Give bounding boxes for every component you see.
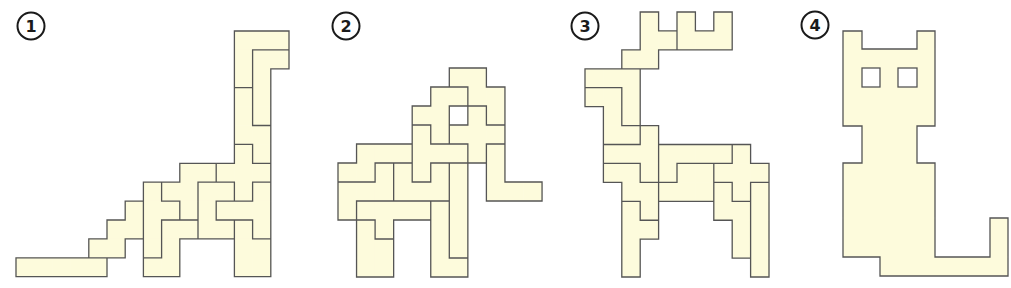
pentomino-cell [252,106,271,126]
pentomino-cell [356,182,375,202]
pentomino-cell [468,68,487,88]
pentomino-cell [234,144,253,164]
pentomino-cell [523,182,542,202]
pentomino-cell [732,220,751,240]
pentomino-cell [234,50,253,70]
pentomino-cell [677,182,696,202]
pentomino-cell [430,239,449,259]
pentomino-cell [107,220,126,240]
pentomino-cell [252,201,271,221]
pentomino-cell [585,87,604,107]
pentomino-cell [375,220,394,240]
pentomino-cell [234,220,253,240]
pentomino-cell [252,258,271,278]
pentomino-cell [161,182,180,202]
pentomino-cell [234,31,253,51]
pentomino-cell [125,220,144,240]
pentomino-cell [695,144,714,164]
pentomino-cell [622,220,641,240]
pentomino-cell [252,182,271,202]
pentomino-cell [622,125,641,145]
pentomino-cell [486,87,505,107]
pentomino-cell [714,12,733,32]
pentomino-cell [750,258,769,278]
pentomino-cell [622,68,641,88]
pentomino-cell [449,220,468,240]
pentomino-cell [143,201,162,221]
pentomino-cell [198,220,217,240]
pentomino-cell [640,220,659,240]
pentomino-cell [180,220,199,240]
pentomino-cell [622,182,641,202]
pentomino-cell [505,182,524,202]
pentomino-cell [430,163,449,183]
pentomino-cell [677,144,696,164]
pentomino-cell [180,163,199,183]
pentomino-cell [695,31,714,51]
pentomino-cell [714,201,733,221]
pentomino-cell [234,106,253,126]
pentomino-cell [449,144,468,164]
pentomino-cell [271,50,290,70]
pentomino-cell [449,163,468,183]
pentomino-cell [252,239,271,259]
pentomino-cell [449,201,468,221]
pentomino-cell [338,201,357,221]
pentomino-cell [677,31,696,51]
pentomino-cell [234,125,253,145]
pentomino-cell [640,144,659,164]
figures-canvas: 1 2 3 4 [0,0,1011,288]
pentomino-cell [234,69,253,89]
pentomino-cell [622,87,641,107]
pentomino-cell [252,50,271,70]
pentomino-cell [750,220,769,240]
pentomino-cell [198,163,217,183]
pentomino-cell [714,31,733,51]
pentomino-cell [412,144,431,164]
pentomino-cell [271,31,290,51]
pentomino-cell [216,182,235,202]
pentomino-cell [125,201,144,221]
pentomino-cell [143,220,162,240]
pentomino-cell [468,87,487,107]
pentomino-cell [143,182,162,202]
pentomino-cell [234,201,253,221]
figure-number: 4 [809,16,820,35]
pentomino-cell [449,68,468,88]
pentomino-cell [234,258,253,278]
pentomino-cell [640,201,659,221]
pentomino-cell [449,239,468,259]
pentomino-cell [603,125,622,145]
pentomino-cell [393,201,412,221]
pentomino-cell [234,163,253,183]
pentomino-cell [658,144,677,164]
right-eye-hole [898,68,917,87]
pentomino-cell [70,258,89,278]
pentomino-cell [356,201,375,221]
pentomino-cell [603,106,622,126]
pentomino-cell [449,87,468,107]
pentomino-cell [486,182,505,202]
pentomino-cell [658,182,677,202]
pentomino-cell [412,106,431,126]
figure-number-badge: 1 [18,13,45,40]
pentomino-cell [393,144,412,164]
pentomino-cell [252,163,271,183]
pentomino-cell [622,239,641,259]
pentomino-cell [216,220,235,240]
pentomino-puzzle-figures: 1 2 3 4 [0,0,1011,288]
pentomino-cell [714,163,733,183]
pentomino-cell [252,220,271,240]
pentomino-cell [585,68,604,88]
pentomino-cell [412,163,431,183]
pentomino-cell [375,163,394,183]
pentomino-cell [449,258,468,278]
figure-number-badge: 2 [333,13,360,40]
pentomino-cell [640,31,659,51]
pentomino-cell [375,144,394,164]
pentomino-cell [234,239,253,259]
pentomino-cell [714,144,733,164]
pentomino-cell [252,125,271,145]
pentomino-cell [34,258,53,278]
pentomino-cell [449,182,468,202]
